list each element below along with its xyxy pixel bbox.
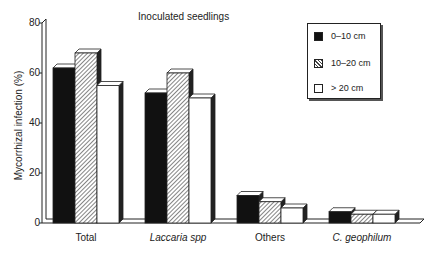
y-tick-label: 0 — [20, 217, 40, 228]
bar — [97, 82, 123, 224]
legend-label: > 20 cm — [331, 83, 363, 93]
y-tick-label: 60 — [20, 67, 40, 78]
y-tick-label: 40 — [20, 117, 40, 128]
x-category-label: Laccaria spp — [128, 232, 228, 243]
legend-item: > 20 cm — [314, 83, 363, 93]
x-category-label: Total — [36, 232, 136, 243]
bar — [189, 94, 215, 223]
swatch-solid-icon — [314, 32, 323, 41]
legend-item: 0–10 cm — [314, 31, 366, 41]
bar — [281, 204, 307, 223]
swatch-white-icon — [314, 84, 323, 93]
y-tick-label: 80 — [20, 17, 40, 28]
swatch-hatched-icon — [314, 59, 323, 68]
x-category-label: Others — [220, 232, 320, 243]
legend-item: 10–20 cm — [314, 58, 371, 68]
y-tick-label: 20 — [20, 167, 40, 178]
legend-label: 10–20 cm — [331, 58, 371, 68]
x-category-label: C. geophilum — [312, 232, 412, 243]
bar — [373, 210, 399, 223]
legend: 0–10 cm 10–20 cm > 20 cm — [307, 23, 381, 99]
legend-label: 0–10 cm — [331, 31, 366, 41]
